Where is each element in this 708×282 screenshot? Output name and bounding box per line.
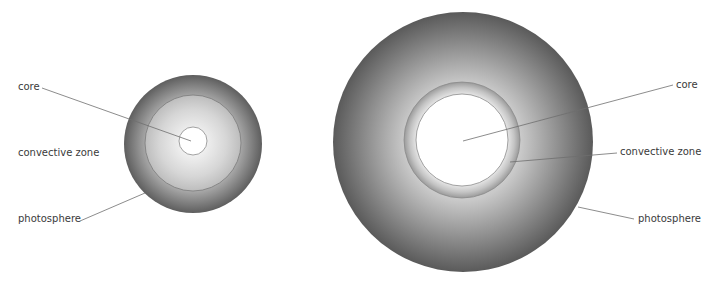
large-star-core <box>416 94 508 186</box>
small-convective-zone-label: convective zone <box>18 147 99 159</box>
small-core-label: core <box>18 81 40 93</box>
large-convective-zone-label: convective zone <box>620 146 701 158</box>
small-photosphere-label: photosphere <box>18 213 81 225</box>
small-photosphere-leader-line <box>80 193 145 221</box>
large-star <box>333 12 673 272</box>
star-comparison-diagram <box>0 0 708 282</box>
large-photosphere-leader-line <box>578 207 634 219</box>
small-star-core <box>179 127 207 155</box>
large-photosphere-label: photosphere <box>638 213 701 225</box>
large-core-label: core <box>676 79 698 91</box>
